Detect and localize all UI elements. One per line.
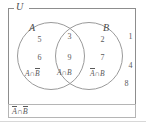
bottom-divider bbox=[0, 121, 146, 122]
element-outside-bottom: 8 bbox=[122, 80, 131, 88]
set-label-a: A bbox=[29, 23, 35, 33]
set-label-b: B bbox=[103, 23, 109, 33]
venn-diagram-figure: U A B 5 6 3 9 2 7 1 4 8 A∩B A∩B A∩B A∩B bbox=[0, 0, 146, 123]
element-b-only-top: 2 bbox=[98, 36, 107, 44]
element-a-only-bottom: 6 bbox=[35, 54, 44, 62]
region-not-a-b-second: B bbox=[100, 69, 105, 78]
region-label-not-a-not-b: A∩B bbox=[12, 106, 28, 117]
region-label-a-not-b: A∩B bbox=[25, 68, 40, 78]
region-label-not-a-b: A∩B bbox=[90, 68, 105, 78]
element-b-only-bottom: 7 bbox=[98, 54, 107, 62]
element-outside-middle: 4 bbox=[126, 62, 135, 70]
element-intersection-top: 3 bbox=[65, 33, 74, 41]
region-a-not-b-second-complement: B bbox=[35, 68, 40, 78]
element-a-only-top: 5 bbox=[35, 36, 44, 44]
element-outside-top: 1 bbox=[126, 33, 135, 41]
element-intersection-bottom: 9 bbox=[65, 54, 74, 62]
region-a-and-b-second: B bbox=[67, 68, 72, 77]
region-not-a-not-b-second-complement: B bbox=[23, 106, 28, 116]
region-label-a-and-b: A∩B bbox=[57, 68, 72, 77]
universe-label: U bbox=[16, 1, 23, 12]
